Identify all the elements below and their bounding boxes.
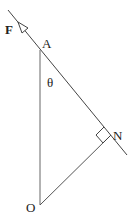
inclined-line (8, 10, 127, 155)
label-A: A (42, 36, 52, 51)
line-ON (40, 135, 111, 205)
label-theta: θ (47, 75, 53, 90)
label-O: O (26, 200, 35, 215)
force-arrow-icon (18, 22, 28, 33)
label-N: N (113, 128, 123, 143)
right-angle-marker (96, 127, 111, 143)
diagram-canvas: F A θ N O (0, 0, 140, 220)
label-F: F (5, 22, 13, 37)
